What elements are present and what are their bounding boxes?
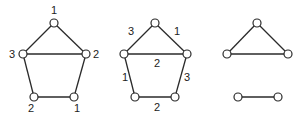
vertex-node	[171, 93, 179, 101]
edge	[23, 23, 54, 54]
edge-label: 3	[184, 71, 190, 83]
edge	[155, 23, 187, 54]
edge-label: 2	[154, 101, 160, 113]
edge-colored-graph: 312132	[120, 19, 191, 113]
edge	[257, 23, 288, 54]
edge	[23, 54, 34, 97]
vertex-node	[284, 50, 292, 58]
edge-label: 1	[174, 25, 180, 37]
vertex-node	[70, 93, 78, 101]
vertex-node	[131, 93, 139, 101]
vertex-node	[19, 50, 27, 58]
vertex-node	[151, 19, 159, 27]
edge	[227, 23, 257, 54]
edge-label: 2	[154, 57, 160, 69]
vertex-label: 2	[28, 102, 34, 114]
vertex-node	[82, 50, 90, 58]
vertex-node	[274, 93, 282, 101]
vertex-node	[253, 19, 261, 27]
edge	[74, 54, 86, 97]
vertex-node	[30, 93, 38, 101]
vertex-node	[120, 50, 128, 58]
edge	[54, 23, 86, 54]
vertex-node	[183, 50, 191, 58]
vertex-label: 1	[74, 102, 80, 114]
edge-label: 3	[128, 25, 134, 37]
edge-label: 1	[122, 71, 128, 83]
vertex-colored-graph: 13221	[9, 4, 99, 114]
vertex-label: 2	[93, 48, 99, 60]
graph-coloring-diagram: 13221312132	[0, 0, 302, 117]
vertex-node	[223, 50, 231, 58]
vertex-label: 3	[9, 48, 15, 60]
vertex-node	[50, 19, 58, 27]
vertex-node	[234, 93, 242, 101]
vertex-label: 1	[51, 4, 57, 16]
subgraph-components	[223, 19, 292, 101]
